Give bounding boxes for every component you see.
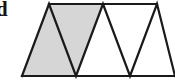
- triangle-strip-diagram: [0, 0, 175, 81]
- figure-container: d: [0, 0, 175, 81]
